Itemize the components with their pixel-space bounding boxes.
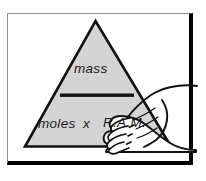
triangle-diagram (0, 0, 206, 181)
division-bar (60, 94, 134, 97)
label-mass: mass (74, 61, 107, 76)
figure-canvas: mass moles x R.A.M. (0, 0, 206, 181)
label-moles: moles (38, 116, 76, 131)
label-multiplication-operator: x (83, 116, 90, 131)
label-ram: R.A.M. (103, 115, 146, 130)
